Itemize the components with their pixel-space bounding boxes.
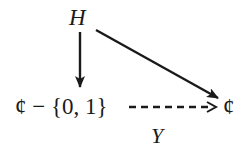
- node-bottom-right: ¢: [223, 95, 235, 118]
- arrow-left-to-right-dashed: [129, 102, 216, 112]
- diagram-arrows: [0, 0, 243, 152]
- edge-label-y: Y: [151, 125, 163, 147]
- node-h: H: [69, 6, 86, 29]
- arrow-top-to-right: [96, 30, 218, 98]
- node-bottom-left: ¢ − {0, 1}: [15, 95, 108, 118]
- commutative-diagram: H ¢ − {0, 1} ¢ Y: [0, 0, 243, 152]
